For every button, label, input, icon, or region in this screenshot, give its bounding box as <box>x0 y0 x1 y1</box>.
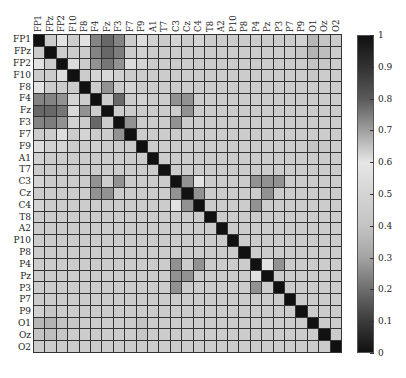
y-tick-label: FP2 <box>0 58 31 69</box>
heatmap-cell <box>137 82 147 93</box>
heatmap-cell <box>251 117 261 128</box>
heatmap-cell <box>159 82 169 93</box>
heatmap-cell <box>34 141 44 152</box>
heatmap-cell <box>205 212 215 223</box>
heatmap-cell <box>148 165 158 176</box>
colorbar-tick-mark <box>370 289 374 290</box>
heatmap-cell <box>68 117 78 128</box>
heatmap-cell <box>57 282 67 293</box>
heatmap-cell <box>45 165 55 176</box>
heatmap-cell <box>251 235 261 246</box>
heatmap-cell <box>80 82 90 93</box>
heatmap-cell <box>194 117 204 128</box>
heatmap-cell <box>239 106 249 117</box>
heatmap-cell <box>296 259 306 270</box>
heatmap-cell <box>91 106 101 117</box>
heatmap-cell <box>114 153 124 164</box>
heatmap-cell <box>296 94 306 105</box>
heatmap-cell <box>285 259 295 270</box>
heatmap-cell <box>45 306 55 317</box>
heatmap-cell <box>217 223 227 234</box>
heatmap-cell <box>228 117 238 128</box>
heatmap-cell <box>171 188 181 199</box>
heatmap-cell <box>331 59 341 70</box>
heatmap-cell <box>34 59 44 70</box>
heatmap-cell <box>285 47 295 58</box>
heatmap-cell <box>45 176 55 187</box>
heatmap-cell <box>91 259 101 270</box>
heatmap-cell <box>251 271 261 282</box>
heatmap-cell <box>331 141 341 152</box>
heatmap-cell <box>148 176 158 187</box>
heatmap-cell <box>217 318 227 329</box>
heatmap-cell <box>137 70 147 81</box>
heatmap-cell <box>34 47 44 58</box>
heatmap-cell <box>80 141 90 152</box>
heatmap-cell <box>274 212 284 223</box>
heatmap-cell <box>114 94 124 105</box>
heatmap-cell <box>239 341 249 352</box>
heatmap-cell <box>102 247 112 258</box>
heatmap-cell <box>319 259 329 270</box>
heatmap-cell <box>274 259 284 270</box>
colorbar-tick-label: 0.1 <box>378 316 392 326</box>
heatmap-cell <box>91 70 101 81</box>
heatmap-cell <box>308 200 318 211</box>
heatmap-cell <box>34 94 44 105</box>
heatmap-cell <box>239 165 249 176</box>
heatmap-cell <box>285 117 295 128</box>
heatmap-cell <box>68 70 78 81</box>
heatmap-cell <box>308 306 318 317</box>
heatmap-cell <box>148 70 158 81</box>
heatmap-cell <box>274 318 284 329</box>
colorbar-tick-label: 0.8 <box>378 94 392 104</box>
x-tick-label: P4 <box>251 2 262 32</box>
heatmap-cell <box>274 117 284 128</box>
heatmap-cell <box>217 141 227 152</box>
y-tick-label: FP1 <box>0 34 31 45</box>
heatmap-cell <box>91 247 101 258</box>
heatmap-cell <box>285 129 295 140</box>
heatmap-cell <box>102 82 112 93</box>
heatmap-cell <box>182 341 192 352</box>
heatmap-cell <box>137 259 147 270</box>
heatmap-cell <box>251 341 261 352</box>
heatmap-cell <box>34 223 44 234</box>
x-tick-label: P9 <box>296 2 307 32</box>
heatmap-cell <box>285 94 295 105</box>
heatmap-cell <box>296 318 306 329</box>
heatmap-cell <box>205 70 215 81</box>
heatmap-cell <box>45 70 55 81</box>
colorbar-tick-label: 0.5 <box>378 189 392 199</box>
y-tick-label: P3 <box>0 283 31 294</box>
y-tick-label: Cz <box>0 188 31 199</box>
heatmap-cell <box>194 141 204 152</box>
heatmap-cell <box>57 70 67 81</box>
heatmap-cell <box>171 200 181 211</box>
heatmap-cell <box>102 259 112 270</box>
heatmap-cell <box>114 70 124 81</box>
heatmap-cell <box>57 247 67 258</box>
heatmap-cell <box>114 176 124 187</box>
heatmap-cell <box>262 212 272 223</box>
heatmap-cell <box>159 188 169 199</box>
heatmap-cell <box>274 141 284 152</box>
heatmap-cell <box>137 141 147 152</box>
heatmap-cell <box>262 200 272 211</box>
heatmap-cell <box>57 129 67 140</box>
heatmap-cell <box>91 200 101 211</box>
heatmap-cell <box>205 259 215 270</box>
heatmap-cell <box>68 106 78 117</box>
heatmap-cell <box>80 35 90 46</box>
heatmap-cell <box>80 106 90 117</box>
heatmap-cell <box>80 94 90 105</box>
heatmap-cell <box>239 294 249 305</box>
heatmap-cell <box>331 35 341 46</box>
heatmap-cell <box>308 223 318 234</box>
heatmap-cell <box>137 271 147 282</box>
heatmap-cell <box>45 188 55 199</box>
y-tick-label: F10 <box>0 70 31 81</box>
heatmap-cell <box>205 306 215 317</box>
heatmap-cell <box>262 259 272 270</box>
heatmap-cell <box>125 200 135 211</box>
